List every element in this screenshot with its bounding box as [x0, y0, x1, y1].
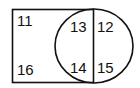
region-label-circle-bottom: 15	[97, 60, 114, 75]
region-label-rect-top-left: 11	[17, 13, 33, 28]
region-label-overlap-bottom: 14	[70, 60, 87, 75]
region-label-circle-top: 12	[97, 19, 114, 34]
region-label-overlap-top: 13	[70, 19, 87, 34]
region-label-rect-bottom-left: 16	[17, 62, 34, 77]
